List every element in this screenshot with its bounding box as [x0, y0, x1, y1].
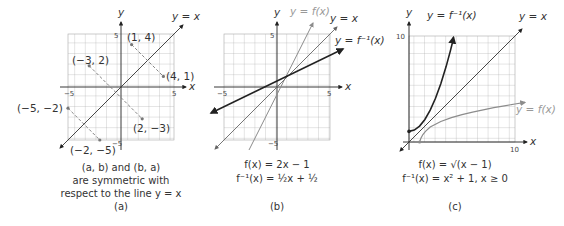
point-label-4-1: (4, 1): [166, 70, 194, 82]
f-label-b: y = f(x): [289, 5, 330, 17]
inverse-label-c: y = f⁻¹(x): [426, 9, 477, 21]
point-4-1: [162, 75, 165, 78]
inverse-start-point-c: [407, 130, 411, 134]
y-axis-label-a: y: [117, 6, 125, 18]
tick-y-pos-c: 10: [396, 33, 405, 41]
point-label-1-4: (1, 4): [127, 31, 155, 43]
f-label-c: y = f(x): [515, 103, 556, 115]
caption-a-line1: (a, b) and (b, a): [82, 162, 161, 173]
point-label-2-neg3: (2, −3): [133, 122, 170, 134]
caption-a-line3: respect to the line y = x: [61, 188, 182, 199]
tick-x-neg-b: −5: [217, 90, 227, 98]
formula-b-f: f(x) = 2x − 1: [244, 159, 309, 170]
tick-x-neg-a: −5: [64, 90, 74, 98]
point-neg2-neg5: [98, 138, 101, 141]
formula-c-f: f(x) = √(x − 1): [418, 159, 491, 170]
formula-c-inverse: f⁻¹(x) = x² + 1, x ≥ 0: [402, 173, 508, 184]
x-axis-label-b: x: [344, 80, 352, 92]
tick-y-neg-b: −5: [268, 140, 278, 148]
identity-label-b: y = x: [329, 12, 359, 24]
identity-label-a: y = x: [171, 10, 201, 22]
formula-b-inverse: f⁻¹(x) = ½x + ½: [236, 173, 318, 184]
point-label-neg5-neg2: (−5, −2): [17, 102, 63, 114]
y-axis-label-b: y: [273, 6, 281, 18]
panel-label-b: (b): [270, 201, 284, 212]
y-axis-label-c: y: [405, 6, 413, 18]
caption-a-line2: are symmetric with: [73, 175, 170, 186]
tick-y-pos-a: 5: [114, 32, 118, 40]
point-2-neg3: [141, 117, 144, 120]
point-label-neg3-2: (−3, 2): [72, 54, 109, 66]
f-start-point-c: [418, 140, 421, 143]
panel-a: y x −5 5 5 −5 y = x (1, 4) (4, 1) (−3, 2…: [17, 6, 201, 212]
point-label-neg2-neg5: (−2, −5): [70, 144, 116, 156]
panel-b: y x −5 5 5 −5 y = f(x) y = x y = f⁻¹(x) …: [211, 5, 385, 212]
identity-label-c: y = x: [518, 10, 548, 22]
panel-label-a: (a): [114, 201, 128, 212]
figure-canvas: y x −5 5 5 −5 y = x (1, 4) (4, 1) (−3, 2…: [0, 0, 564, 226]
panel-label-c: (c): [448, 201, 461, 212]
point-1-4: [130, 43, 133, 46]
point-neg5-neg2: [66, 107, 69, 110]
inverse-label-b: y = f⁻¹(x): [334, 34, 385, 46]
tick-y-pos-b: 5: [270, 32, 274, 40]
x-axis-label-c: x: [529, 135, 537, 147]
tick-x-pos-b: 5: [327, 90, 331, 98]
panel-c: y x 10 10 y = f⁻¹(x) y = x y = f(x) f(x)…: [396, 6, 556, 212]
tick-x-pos-a: 5: [172, 90, 176, 98]
tick-x-pos-c: 10: [510, 146, 519, 154]
